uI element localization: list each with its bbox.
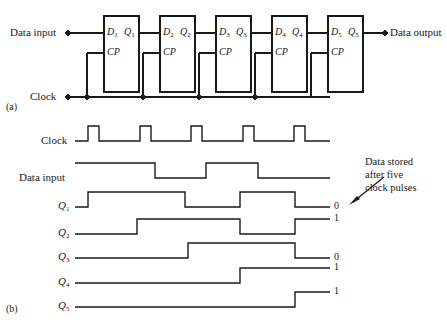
annotation-line-3: clock pulses <box>365 182 417 193</box>
stored-bit-q5: 1 <box>334 285 339 296</box>
figure-shift-register: Data input Clock Data output D1 Q1 CP D2… <box>0 0 447 328</box>
timing-label-q1: Q1 <box>58 199 69 213</box>
waveform-q3 <box>75 243 330 258</box>
timing-label-q4: Q4 <box>58 275 69 289</box>
annotation-line-1: Data stored <box>365 156 413 167</box>
timing-label-q5: Q5 <box>58 299 69 313</box>
waveform-q5 <box>75 292 330 307</box>
annotation-line-2: after five <box>365 169 403 180</box>
waveform-q4 <box>75 268 330 283</box>
timing-data-input-label: Data input <box>19 171 65 183</box>
timing-label-q2: Q2 <box>58 226 69 240</box>
waveform-q2 <box>75 219 330 234</box>
waveform-q1 <box>75 192 330 207</box>
waveform-clock <box>75 126 330 141</box>
stored-bit-q1: 0 <box>334 200 339 211</box>
stored-bit-q4: 1 <box>334 261 339 272</box>
part-b-caption: (b) <box>6 303 18 314</box>
stored-bit-q2: 1 <box>334 212 339 223</box>
timing-label-q3: Q3 <box>58 250 69 264</box>
timing-clock-label: Clock <box>41 134 67 146</box>
waveform-data-input <box>75 163 330 178</box>
